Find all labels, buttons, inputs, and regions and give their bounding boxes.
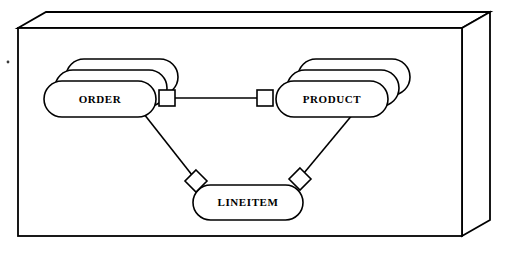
slab-right-face [462,12,490,236]
entity-lineitem-label: LINEITEM [217,196,278,208]
connector-square-order[interactable] [159,90,175,106]
er-diagram: ORDER PRODUCT LINEITEM [0,0,510,254]
connector-square-product[interactable] [257,90,273,106]
slab-top-face [18,12,490,28]
entity-product-label: PRODUCT [303,93,362,105]
entity-order-label: ORDER [79,93,122,105]
scan-speck [7,61,10,64]
diagram-canvas: ORDER PRODUCT LINEITEM [0,0,510,254]
entity-lineitem[interactable]: LINEITEM [193,185,303,220]
